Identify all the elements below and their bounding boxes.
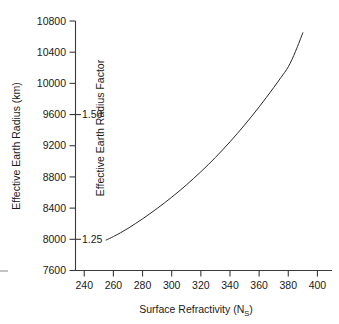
chart-figure: 760080008400880092009600100001040010800 … [0, 0, 339, 324]
y-tick-label: 8400 [43, 202, 67, 214]
secondary-y-tick-label: 1.25 [82, 233, 103, 245]
y-axis-title: Effective Earth Radius (km) [10, 82, 22, 210]
x-axis-title-tail: ) [249, 303, 253, 315]
data-series-line [106, 33, 303, 240]
y-tick-label: 10800 [37, 15, 66, 27]
secondary-y-axis-title: Effective Earth Radius Factor [94, 59, 106, 196]
x-tick-label: 320 [192, 279, 210, 291]
y-tick-label: 9600 [43, 108, 67, 120]
x-axis-title: Surface Refractivity (NS) [139, 303, 253, 318]
y-tick-label: 8800 [43, 171, 67, 183]
x-axis-title-main: Surface Refractivity (N [139, 303, 244, 315]
x-tick-label: 240 [75, 279, 93, 291]
y-tick-label: 8000 [43, 233, 67, 245]
y-tick-label: 10000 [37, 77, 66, 89]
x-tick-label: 340 [221, 279, 239, 291]
x-tick-label: 260 [105, 279, 123, 291]
chart-svg: 760080008400880092009600100001040010800 … [0, 0, 339, 324]
y-axis-ticks: 760080008400880092009600100001040010800 [37, 15, 76, 277]
x-tick-label: 300 [163, 279, 181, 291]
y-tick-label: 7600 [43, 264, 67, 276]
y-tick-label: 9200 [43, 139, 67, 151]
y-tick-label: 10400 [37, 46, 66, 58]
x-tick-label: 360 [250, 279, 268, 291]
x-tick-label: 400 [309, 279, 327, 291]
x-axis-ticks: 240260280300320340360380400 [75, 271, 326, 292]
x-tick-label: 380 [280, 279, 298, 291]
x-tick-label: 280 [134, 279, 152, 291]
